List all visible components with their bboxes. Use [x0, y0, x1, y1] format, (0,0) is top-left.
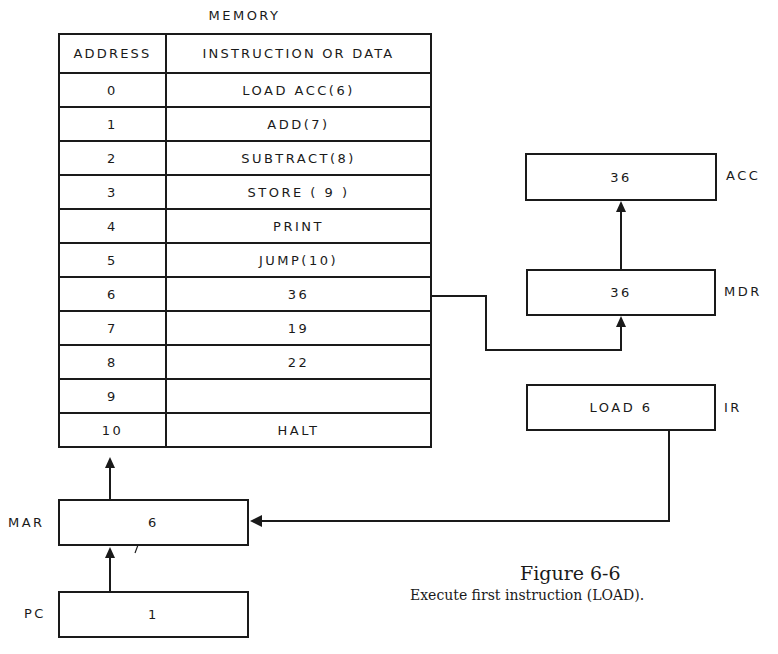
arrow-up-icon	[616, 201, 626, 212]
arrow-up-icon	[105, 457, 115, 468]
ir-to-mar-wire	[262, 431, 669, 521]
arrow-up-icon	[616, 316, 626, 327]
arrow-up-icon	[105, 547, 115, 558]
tick-mark	[135, 545, 138, 553]
figure-caption: Execute first instruction (LOAD).	[410, 587, 644, 603]
figure-title: Figure 6-6	[520, 562, 621, 584]
memory-to-mdr-wire	[432, 296, 621, 350]
arrow-left-icon	[250, 515, 262, 527]
connector-wires	[0, 0, 778, 654]
